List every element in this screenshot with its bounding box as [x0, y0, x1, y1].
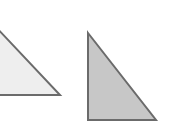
figure-canvas: [0, 0, 171, 129]
triangles-figure: [0, 0, 171, 129]
